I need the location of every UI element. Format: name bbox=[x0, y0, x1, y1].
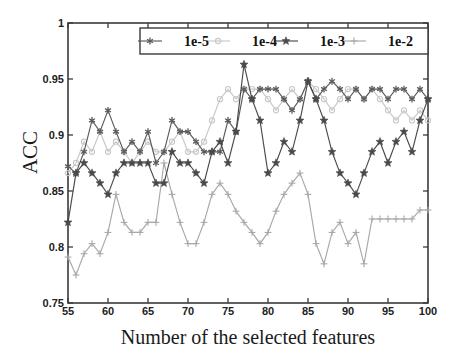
chart-figure: ACC Number of the selected features 1 0.… bbox=[0, 0, 455, 361]
y-tick-label-085: 0.85 bbox=[43, 185, 64, 197]
x-tick-label-80: 80 bbox=[262, 305, 274, 317]
x-tick-label-95: 95 bbox=[382, 305, 394, 317]
x-axis-label: Number of the selected features bbox=[68, 326, 428, 349]
x-tick-label-90: 90 bbox=[342, 305, 354, 317]
legend-box bbox=[138, 28, 428, 54]
x-tick-label-60: 60 bbox=[102, 305, 114, 317]
series-1e-2 bbox=[65, 160, 432, 279]
x-tick-label-85: 85 bbox=[302, 305, 314, 317]
y-tick-label-08: 0.8 bbox=[49, 241, 64, 253]
x-tick-label-55: 55 bbox=[62, 305, 74, 317]
y-tick-label-09: 0.9 bbox=[49, 129, 64, 141]
y-tick-label-075: 0.75 bbox=[43, 297, 64, 309]
x-tick-label-65: 65 bbox=[142, 305, 154, 317]
y-axis-label: ACC bbox=[18, 93, 43, 213]
x-tick-label-70: 70 bbox=[182, 305, 194, 317]
x-tick-label-100: 100 bbox=[419, 305, 437, 317]
y-tick-label-095: 0.95 bbox=[43, 73, 64, 85]
series-1e-3 bbox=[64, 60, 432, 226]
y-tick-label-1: 1 bbox=[58, 17, 64, 29]
x-tick-label-75: 75 bbox=[222, 305, 234, 317]
